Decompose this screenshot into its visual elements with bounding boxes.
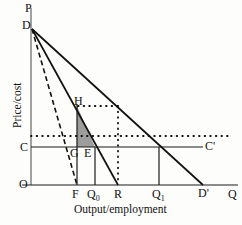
label-point-d: D [22, 19, 31, 31]
label-point-d-prime: D' [198, 187, 209, 199]
label-point-e: E [84, 147, 91, 159]
label-p-axis: P [25, 2, 32, 14]
label-q-axis: Q [228, 188, 237, 200]
label-q1-base: Q [152, 187, 161, 201]
label-point-q1: Q1 [152, 188, 165, 203]
label-q0-sub: 0 [96, 194, 100, 203]
label-point-g: G [70, 147, 79, 159]
x-axis-title: Output/employment [74, 204, 167, 216]
label-point-c-prime: C' [205, 140, 215, 152]
label-q0-base: Q [87, 187, 96, 201]
economics-diagram: Price/cost Output/employment P D H C C' … [0, 0, 242, 225]
label-origin-o: O [19, 178, 28, 190]
label-point-c: C [20, 141, 28, 153]
label-point-h: H [74, 95, 83, 107]
label-point-r: R [114, 188, 122, 200]
label-point-q0: Q0 [87, 188, 100, 203]
label-point-f: F [72, 188, 79, 200]
y-axis-title: Price/cost [12, 83, 24, 128]
dashed-curve-df [32, 29, 77, 185]
label-q1-sub: 1 [161, 194, 165, 203]
